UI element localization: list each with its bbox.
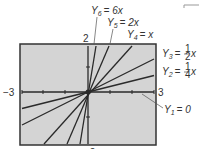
graphing-calculator-figure: −3 3 2 −2 Y6= 6x Y5= 2x Y4= x Y3= 1 2 x … bbox=[0, 0, 199, 149]
ymin-label: −2 bbox=[84, 147, 96, 149]
svg-text:Y1= 0: Y1= 0 bbox=[164, 104, 191, 116]
label-y4: Y4= x bbox=[127, 29, 154, 41]
svg-text:Y3=: Y3= bbox=[162, 48, 181, 60]
label-y2: Y2= 1 4 x bbox=[162, 61, 197, 80]
svg-text:Y4= x: Y4= x bbox=[127, 29, 154, 41]
xmin-label: −3 bbox=[3, 87, 15, 98]
corner-mark bbox=[184, 5, 199, 8]
svg-text:Y6= 6x: Y6= 6x bbox=[91, 5, 124, 17]
ymax-label: 2 bbox=[83, 33, 89, 44]
label-y3: Y3= 1 2 x bbox=[162, 43, 197, 62]
svg-text:x: x bbox=[190, 48, 197, 59]
svg-text:Y5= 2x: Y5= 2x bbox=[107, 17, 140, 29]
svg-text:Y2=: Y2= bbox=[162, 66, 181, 78]
xmax-label: 3 bbox=[158, 87, 164, 98]
origin-blob bbox=[86, 90, 91, 95]
svg-text:x: x bbox=[190, 66, 197, 77]
